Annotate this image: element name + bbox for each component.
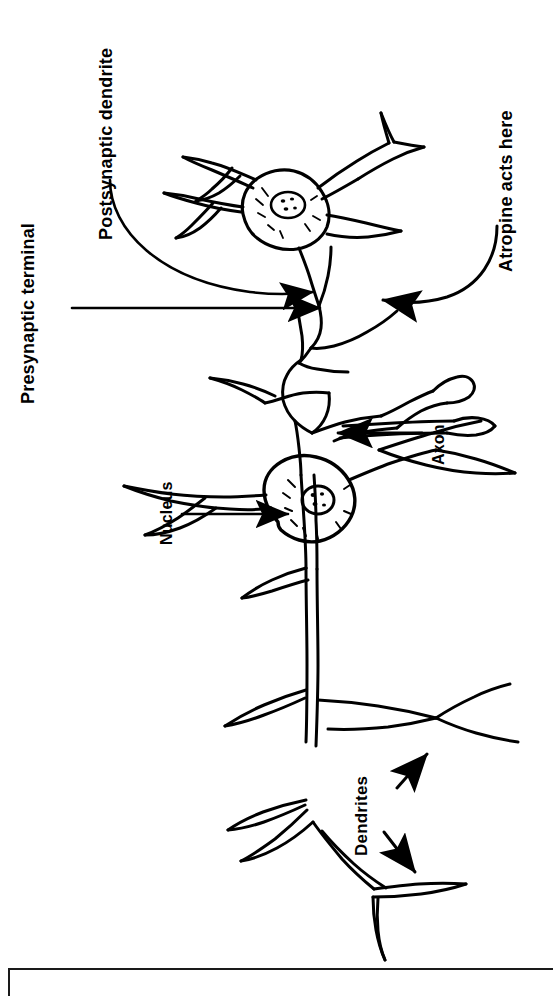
axon-collateral-lower [242, 568, 308, 598]
lower-nucleus-dots [311, 492, 326, 506]
dendrites-leader-lower [384, 832, 415, 872]
label-nucleus: Nucleus [158, 481, 176, 545]
figure-page: Presynaptic terminal Postsynaptic dendri… [0, 0, 553, 996]
presynaptic-terminal [210, 300, 329, 475]
upper-neuron-dendrites [164, 113, 424, 306]
dendrites-leader-upper [397, 754, 427, 788]
lower-soma-dendrites [124, 421, 515, 535]
dendrite-tree [225, 568, 518, 960]
axon-terminal-bouton [340, 418, 495, 438]
label-dendrites: Dendrites [352, 776, 372, 856]
label-presynaptic-terminal: Presynaptic terminal [18, 223, 39, 404]
label-atropine-acts-here: Atropine acts here [496, 110, 517, 272]
synaptic-cleft [299, 363, 348, 372]
lower-neuron-nucleus [302, 486, 334, 514]
label-axon: Axon [430, 424, 448, 465]
atropine-leader [383, 226, 497, 302]
upper-soma-hatching [256, 188, 320, 238]
upper-nucleus-dots [281, 197, 297, 210]
label-postsynaptic-dendrite: Postsynaptic dendrite [96, 48, 117, 240]
caption-box [8, 968, 553, 996]
neuron-diagram-drawing [0, 0, 553, 996]
axon-collaterals [312, 376, 474, 441]
postsynaptic-dendrite-tip [299, 306, 397, 363]
upper-neuron-nucleus [271, 192, 305, 218]
